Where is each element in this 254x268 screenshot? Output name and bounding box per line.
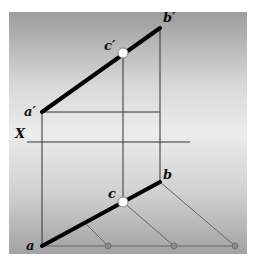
label-c: c (108, 186, 116, 201)
projection-diagram: b′ c′ a′ X b c a (0, 0, 254, 268)
label-c-prime: c′ (104, 38, 116, 53)
label-b: b (163, 167, 172, 182)
label-a: a (26, 238, 34, 253)
point-c (118, 197, 128, 207)
construction-dot-1 (105, 243, 111, 249)
label-a-prime: a′ (24, 104, 36, 119)
diagram-panel (9, 12, 247, 254)
label-b-prime: b′ (163, 10, 176, 25)
construction-dot-2 (171, 243, 177, 249)
label-x-axis: X (14, 126, 26, 141)
point-c-prime (118, 48, 128, 58)
construction-dot-3 (232, 243, 238, 249)
